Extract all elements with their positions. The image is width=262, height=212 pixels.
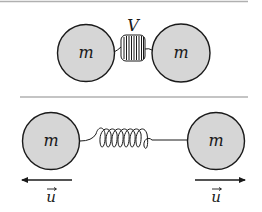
bottom-left-mass: m [23, 113, 80, 170]
top-right-mass: m [152, 24, 210, 82]
diagram-canvas: V m m m m u [0, 0, 262, 212]
top-panel: V m m [58, 16, 211, 82]
relaxed-spring [80, 128, 188, 148]
right-velocity-label-group: u [211, 188, 221, 207]
bottom-right-mass-label: m [208, 131, 223, 150]
left-velocity-label-group: u [46, 188, 56, 207]
top-left-mass-label: m [78, 43, 93, 62]
bottom-left-mass-label: m [43, 131, 58, 150]
compressed-spring [121, 35, 145, 61]
spring-energy-label: V [127, 16, 140, 35]
bottom-right-mass: m [188, 113, 245, 170]
bottom-panel: m m u u [22, 113, 245, 207]
top-left-mass: m [58, 25, 115, 82]
top-right-mass-label: m [173, 43, 188, 62]
